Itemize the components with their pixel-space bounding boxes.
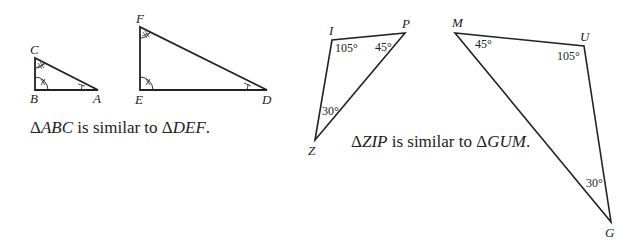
triangle-gum: M U G 45° 105° 30° [451, 15, 615, 240]
vertex-label-z: Z [308, 143, 316, 158]
angle-i-value: 105° [335, 41, 358, 55]
triangle-name: GUM [487, 132, 526, 151]
angle-a-tick [78, 84, 85, 86]
vertex-label-d: D [261, 92, 272, 107]
angle-b-arc [35, 77, 48, 90]
triangle-gum-outline [455, 33, 611, 222]
angle-e-arc [140, 77, 153, 90]
triangle-name: ABC [41, 118, 73, 137]
triangle-abc: C B A [30, 42, 101, 106]
angle-g-value: 30° [586, 176, 603, 190]
caption-period: . [206, 118, 210, 137]
vertex-label-f: F [135, 11, 145, 26]
caption-text: is similar to [387, 132, 476, 151]
triangle-def: F E D [134, 11, 272, 107]
vertex-label-c: C [30, 42, 39, 57]
vertex-label-u: U [580, 29, 591, 44]
vertex-label-g: G [605, 225, 615, 240]
vertex-label-b: B [30, 91, 38, 106]
caption-text: is similar to [73, 118, 162, 137]
delta-symbol: Δ [476, 132, 487, 151]
triangle-def-outline [140, 27, 267, 90]
vertex-label-p: P [401, 16, 410, 31]
triangle-name: ZIP [362, 132, 388, 151]
caption-zip-gum: ΔZIP is similar to ΔGUM. [351, 132, 530, 152]
delta-symbol: Δ [30, 118, 41, 137]
caption-abc-def: ΔABC is similar to ΔDEF. [30, 118, 210, 138]
vertex-label-a: A [92, 91, 101, 106]
angle-z-value: 30° [322, 104, 339, 118]
angle-m-value: 45° [475, 37, 492, 51]
delta-symbol: Δ [351, 132, 362, 151]
caption-period: . [526, 132, 530, 151]
vertex-label-i: I [328, 23, 334, 38]
vertex-label-m: M [451, 15, 464, 30]
vertex-label-e: E [134, 92, 143, 107]
triangle-name: DEF [173, 118, 206, 137]
angle-p-value: 45° [375, 40, 392, 54]
angle-u-value: 105° [557, 49, 580, 63]
delta-symbol: Δ [162, 118, 173, 137]
triangle-abc-outline [35, 58, 98, 90]
